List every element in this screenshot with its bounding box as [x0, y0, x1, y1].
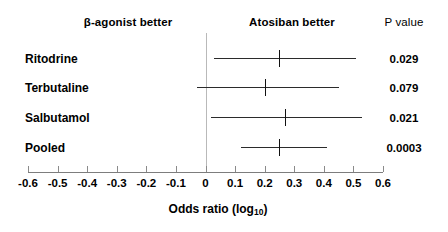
x-axis-title: Odds ratio (log10) [169, 202, 268, 216]
axis-title-subscript: 10 [254, 207, 263, 217]
x-tick-label-1: -0.5 [48, 177, 68, 189]
x-tick-12 [383, 166, 384, 172]
study-label-salbutamol: Salbutamol [25, 111, 90, 125]
x-tick-8 [265, 166, 266, 172]
x-tick-label-2: -0.4 [77, 177, 97, 189]
x-tick-5 [176, 166, 177, 172]
study-label-pooled: Pooled [25, 141, 65, 155]
study-row: Salbutamol0.021 [0, 111, 448, 137]
x-tick-label-0: -0.6 [18, 177, 38, 189]
x-tick-label-5: -0.1 [166, 177, 186, 189]
x-tick-label-11: 0.5 [345, 177, 361, 189]
x-axis-line [28, 172, 383, 173]
study-row: Ritodrine0.029 [0, 52, 448, 78]
x-tick-2 [87, 166, 88, 172]
x-tick-10 [324, 166, 325, 172]
x-tick-1 [58, 166, 59, 172]
x-tick-label-3: -0.3 [107, 177, 127, 189]
study-row: Pooled0.0003 [0, 141, 448, 167]
p-value-pooled: 0.0003 [386, 141, 421, 155]
x-tick-0 [28, 166, 29, 172]
study-label-ritodrine: Ritodrine [25, 52, 78, 66]
x-tick-label-7: 0.1 [227, 177, 243, 189]
study-row: Terbutaline0.079 [0, 81, 448, 107]
axis-title-close: ) [263, 202, 267, 216]
x-tick-4 [146, 166, 147, 172]
x-tick-9 [294, 166, 295, 172]
x-tick-label-4: -0.2 [136, 177, 156, 189]
x-tick-label-10: 0.4 [316, 177, 332, 189]
p-value-salbutamol: 0.021 [390, 111, 419, 125]
p-value-ritodrine: 0.029 [390, 52, 419, 66]
header-p-value: P value [385, 16, 424, 28]
axis-title-main: Odds ratio (log [169, 202, 254, 216]
x-tick-3 [117, 166, 118, 172]
x-tick-label-6: 0 [202, 177, 208, 189]
header-beta-agonist-better: β-agonist better [84, 16, 172, 28]
x-tick-label-9: 0.3 [286, 177, 302, 189]
x-tick-6 [206, 166, 207, 172]
x-tick-label-12: 0.6 [375, 177, 391, 189]
x-tick-7 [235, 166, 236, 172]
study-label-terbutaline: Terbutaline [25, 81, 89, 95]
p-value-terbutaline: 0.079 [390, 81, 419, 95]
x-tick-label-8: 0.2 [257, 177, 273, 189]
x-tick-11 [353, 166, 354, 172]
header-atosiban-better: Atosiban better [249, 16, 335, 28]
forest-plot-figure: β-agonist better Atosiban better P value… [0, 0, 448, 232]
